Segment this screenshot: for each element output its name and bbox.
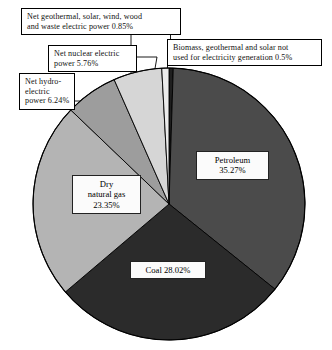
- slice-label-natural-gas[interactable]: Dry natural gas 23.35%: [72, 175, 141, 214]
- slice-label-petroleum-value: 35.27%: [199, 165, 266, 175]
- callout-biomass[interactable]: Biomass, geothermal and solar not used f…: [167, 39, 322, 66]
- slice-label-petroleum[interactable]: Petroleum 35.27%: [196, 151, 269, 180]
- slice-label-petroleum-name: Petroleum: [199, 155, 266, 165]
- slice-label-natural-gas-line1: Dry: [75, 179, 138, 189]
- callout-biomass-line2: used for electricity generation 0.5%: [173, 53, 317, 63]
- callout-hydro-line3: power 6.24%: [25, 96, 70, 106]
- slice-label-natural-gas-value: 23.35%: [75, 200, 138, 210]
- callout-hydro-line1: Net hydro-: [25, 77, 70, 87]
- callout-nuclear-line2: power 5.76%: [54, 59, 132, 69]
- callout-geothermal-line1: Net geothermal, solar, wind, wood: [27, 12, 176, 22]
- callout-hydro[interactable]: Net hydro- electric power 6.24%: [19, 73, 75, 110]
- slice-label-natural-gas-line2: natural gas: [75, 189, 138, 199]
- slice-label-coal-text: Coal 28.02%: [133, 265, 203, 275]
- callout-biomass-line1: Biomass, geothermal and solar not: [173, 43, 317, 53]
- callout-nuclear[interactable]: Net nuclear electric power 5.76%: [48, 45, 137, 72]
- callout-geothermal-line2: and waste electric power 0.85%: [27, 22, 176, 32]
- slice-label-coal[interactable]: Coal 28.02%: [130, 261, 206, 279]
- callout-nuclear-line1: Net nuclear electric: [54, 49, 132, 59]
- pie-chart-figure: Net geothermal, solar, wind, wood and wa…: [0, 0, 332, 350]
- callout-geothermal-solar-wind[interactable]: Net geothermal, solar, wind, wood and wa…: [21, 8, 181, 35]
- callout-hydro-line2: electric: [25, 87, 70, 97]
